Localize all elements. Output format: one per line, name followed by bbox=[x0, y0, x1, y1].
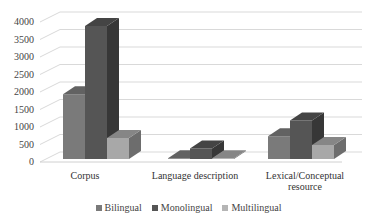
y-tick-label: 4000 bbox=[0, 16, 34, 27]
bars bbox=[63, 18, 346, 159]
x-label-line2: resource bbox=[250, 181, 360, 192]
y-tick-label: 2500 bbox=[0, 69, 34, 80]
legend-swatch-icon bbox=[96, 205, 102, 211]
y-tick-label: 1500 bbox=[0, 104, 34, 115]
legend-swatch-icon bbox=[222, 205, 228, 211]
legend: Bilingual Monolingual Multilingual bbox=[0, 202, 377, 213]
x-label-corpus: Corpus bbox=[55, 170, 115, 181]
legend-label: Multilingual bbox=[231, 202, 281, 213]
y-tick-label: 3500 bbox=[0, 34, 34, 45]
legend-item-bilingual: Bilingual bbox=[96, 202, 142, 213]
x-label-lexical-conceptual-resource: Lexical/Conceptual resource bbox=[250, 170, 360, 192]
y-tick-label: 3000 bbox=[0, 51, 34, 62]
y-tick-label: 1000 bbox=[0, 121, 34, 132]
legend-label: Bilingual bbox=[105, 202, 142, 213]
legend-item-monolingual: Monolingual bbox=[152, 202, 213, 213]
y-tick-label: 2000 bbox=[0, 86, 34, 97]
legend-item-multilingual: Multilingual bbox=[222, 202, 281, 213]
x-label-language-description: Language description bbox=[140, 170, 250, 181]
y-tick-label: 500 bbox=[0, 139, 34, 150]
y-tick-label: 0 bbox=[0, 156, 34, 167]
x-label-line1: Lexical/Conceptual bbox=[250, 170, 360, 181]
bar-chart: 05001000150020002500300035004000 Corpus … bbox=[0, 0, 377, 224]
legend-swatch-icon bbox=[152, 205, 158, 211]
legend-label: Monolingual bbox=[161, 202, 213, 213]
